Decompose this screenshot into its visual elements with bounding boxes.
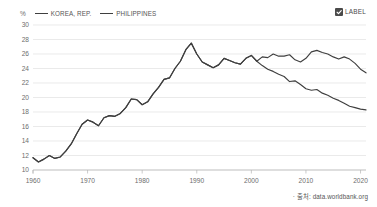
- series-line-korea-rep: [33, 43, 366, 162]
- x-axis-tick-label: 1960: [26, 177, 41, 184]
- gridlines: [33, 25, 366, 170]
- x-axis-tick-label: 1990: [189, 177, 204, 184]
- y-axis-tick-label: 22: [22, 79, 30, 86]
- x-axis: [33, 170, 366, 174]
- x-axis-tick-label: 2010: [299, 177, 314, 184]
- x-axis-tick-label: 1980: [135, 177, 150, 184]
- y-axis-tick-labels: 1012141618202224262830: [22, 21, 30, 173]
- source-note: · 출처: data.worldbank.org: [293, 192, 368, 201]
- y-axis-tick-label: 18: [22, 108, 30, 115]
- y-axis-tick-label: 10: [22, 166, 30, 173]
- x-axis-tick-label: 1970: [80, 177, 95, 184]
- chart-container: % KOREA, REP. PHILIPPINES LABEL 10121416…: [0, 0, 377, 207]
- plot-area: 1012141618202224262830 19601970198019902…: [0, 0, 377, 207]
- y-axis-tick-label: 14: [22, 137, 30, 144]
- x-axis-tick-labels: 1960197019801990200020102020: [26, 177, 369, 184]
- data-series-group: [33, 43, 366, 162]
- x-axis-tick-label: 2020: [353, 177, 368, 184]
- y-axis-tick-label: 26: [22, 50, 30, 57]
- x-axis-tick-label: 2000: [244, 177, 259, 184]
- y-axis-tick-label: 16: [22, 123, 30, 130]
- y-axis-tick-label: 28: [22, 36, 30, 43]
- line-chart-svg: 1012141618202224262830 19601970198019902…: [0, 0, 377, 207]
- series-line-philippines: [33, 43, 366, 162]
- y-axis-tick-label: 30: [22, 21, 30, 28]
- y-axis-tick-label: 12: [22, 152, 30, 159]
- y-axis-tick-label: 20: [22, 94, 30, 101]
- y-axis-tick-label: 24: [22, 65, 30, 72]
